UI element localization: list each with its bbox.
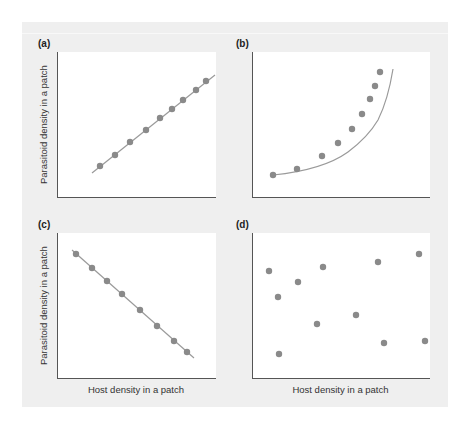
panel-label-a: (a): [38, 38, 50, 49]
panel-label-d: (d): [236, 219, 249, 230]
y-axis-label-c: Parasitoid density in a patch: [38, 246, 49, 365]
plot-a-graphic: [58, 52, 216, 197]
plot-b: [252, 52, 430, 198]
plot-d-graphic: [253, 233, 430, 378]
y-axis-label-a: Parasitoid density in a patch: [38, 65, 49, 184]
plot-c-graphic: [58, 233, 216, 378]
divider: [22, 33, 448, 34]
plot-b-graphic: [253, 52, 430, 197]
plot-d: [252, 233, 430, 379]
x-axis-label-c: Host density in a patch: [57, 384, 215, 395]
panel-label-b: (b): [236, 38, 249, 49]
x-axis-label-d: Host density in a patch: [252, 384, 429, 395]
plot-c: [57, 233, 216, 379]
plot-a: [57, 52, 216, 198]
panel-label-c: (c): [38, 219, 50, 230]
